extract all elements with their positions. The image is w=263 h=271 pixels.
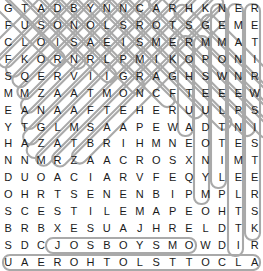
grid-cell: N: [66, 51, 82, 68]
grid-cell: L: [99, 17, 115, 34]
grid-cell: B: [33, 220, 49, 237]
grid-cell: E: [230, 136, 246, 153]
grid-cell: L: [49, 119, 65, 136]
grid-cell: A: [148, 0, 164, 17]
grid-cell: H: [181, 68, 197, 85]
grid-cell: R: [164, 102, 180, 119]
grid-cell: T: [99, 254, 115, 271]
grid-cell: M: [132, 203, 148, 220]
grid-cell: T: [16, 0, 32, 17]
grid-cell: S: [115, 17, 131, 34]
grid-cell: S: [148, 254, 164, 271]
grid-cell: E: [115, 102, 131, 119]
grid-cell: R: [247, 186, 263, 203]
grid-cell: J: [49, 237, 65, 254]
grid-cell: F: [148, 169, 164, 186]
grid-cell: Z: [33, 85, 49, 102]
grid-cell: K: [247, 220, 263, 237]
grid-cell: D: [214, 220, 230, 237]
grid-cell: O: [148, 17, 164, 34]
grid-cell: W: [214, 68, 230, 85]
grid-cell: L: [230, 254, 246, 271]
grid-cell: R: [247, 68, 263, 85]
grid-cell: C: [214, 254, 230, 271]
grid-cell: A: [66, 102, 82, 119]
grid-cell: R: [132, 152, 148, 169]
grid-cell: S: [197, 68, 213, 85]
grid-cell: E: [99, 34, 115, 51]
grid-cell: L: [99, 203, 115, 220]
grid-cell: P: [132, 119, 148, 136]
grid-cell: H: [82, 254, 98, 271]
grid-cell: V: [66, 68, 82, 85]
word-search-puzzle: G T A D B Y N N C A R H K N E R F U S O …: [0, 0, 263, 271]
grid-cell: O: [197, 203, 213, 220]
grid-cell: M: [148, 136, 164, 153]
grid-cell: N: [214, 0, 230, 17]
grid-cell: A: [148, 68, 164, 85]
grid-cell: E: [164, 169, 180, 186]
grid-cell: C: [33, 237, 49, 254]
grid-cell: L: [197, 220, 213, 237]
grid-cell: O: [197, 136, 213, 153]
grid-cell: O: [33, 169, 49, 186]
grid-cell: E: [66, 220, 82, 237]
grid-cell: I: [230, 237, 246, 254]
grid-cell: T: [49, 186, 65, 203]
grid-cell: T: [99, 102, 115, 119]
grid-cell: T: [230, 220, 246, 237]
grid-cell: L: [214, 102, 230, 119]
grid-cell: R: [49, 254, 65, 271]
grid-cell: H: [132, 102, 148, 119]
grid-cell: L: [132, 254, 148, 271]
grid-cell: T: [181, 85, 197, 102]
grid-cell: O: [33, 34, 49, 51]
grid-cell: I: [148, 51, 164, 68]
grid-cell: A: [247, 254, 263, 271]
grid-cell: C: [0, 34, 16, 51]
grid-cell: R: [49, 68, 65, 85]
grid-cell: O: [197, 254, 213, 271]
grid-cell: T: [66, 203, 82, 220]
grid-cell: E: [214, 85, 230, 102]
grid-cell: S: [164, 152, 180, 169]
grid-cell: C: [132, 0, 148, 17]
grid-cell: K: [16, 51, 32, 68]
grid-cell: H: [132, 136, 148, 153]
grid-cell: I: [247, 119, 263, 136]
grid-cell: A: [82, 34, 98, 51]
grid-cell: T: [82, 85, 98, 102]
grid-cell: I: [115, 34, 131, 51]
grid-cell: D: [197, 119, 213, 136]
grid-cell: S: [49, 203, 65, 220]
grid-cell: I: [214, 152, 230, 169]
grid-cell: R: [99, 136, 115, 153]
grid-cell: B: [66, 0, 82, 17]
grid-cell: P: [230, 102, 246, 119]
grid-cell: N: [33, 102, 49, 119]
grid-cell: M: [197, 186, 213, 203]
grid-cell: T: [16, 119, 32, 136]
grid-cell: I: [82, 68, 98, 85]
grid-cell: G: [0, 0, 16, 17]
grid-cell: M: [33, 152, 49, 169]
grid-cell: H: [214, 203, 230, 220]
grid-cell: E: [115, 186, 131, 203]
grid-cell: A: [33, 0, 49, 17]
grid-cell: M: [132, 51, 148, 68]
grid-cell: P: [181, 186, 197, 203]
grid-cell: S: [66, 34, 82, 51]
grid-cell: R: [82, 51, 98, 68]
grid-cell: A: [66, 85, 82, 102]
grid-cell: O: [82, 17, 98, 34]
grid-cell: R: [33, 186, 49, 203]
grid-cell: O: [181, 51, 197, 68]
grid-cell: N: [99, 186, 115, 203]
grid-cell: S: [82, 220, 98, 237]
grid-cell: S: [247, 136, 263, 153]
grid-cell: G: [115, 68, 131, 85]
grid-cell: A: [148, 203, 164, 220]
grid-cell: N: [164, 136, 180, 153]
grid-cell: M: [148, 34, 164, 51]
grid-cell: E: [247, 17, 263, 34]
